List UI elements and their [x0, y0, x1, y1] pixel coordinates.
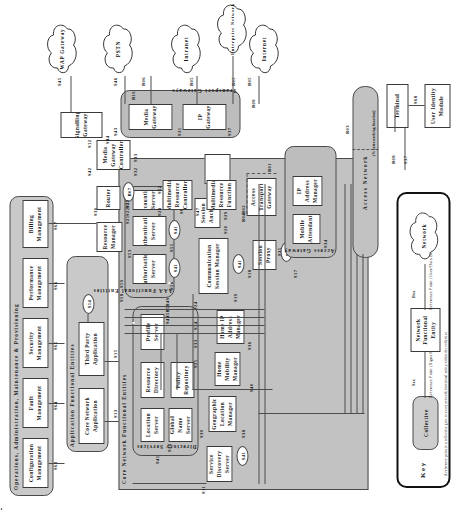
ref-s53: S53 [126, 249, 131, 258]
link-s14-a [87, 314, 88, 322]
key-bearer-ref: Bxx [410, 290, 416, 298]
ref-s26: S26 [166, 443, 171, 452]
collective-transport-gateways-label: Transport Gateways [171, 88, 236, 94]
cloud-enterprise-network: Enterprise Network [214, 0, 248, 58]
ref-s64: S64 [52, 401, 57, 410]
node-ip-gateway: IP Gateway [182, 104, 226, 130]
ref-s36: S36 [246, 341, 251, 350]
ref-s44: S44 [104, 135, 109, 144]
ref-s28: S28 [156, 207, 161, 216]
link-b08 [394, 106, 395, 132]
collective-access-gateway-label: Access Gateway [283, 248, 334, 254]
dashed-access-iwf [352, 149, 378, 150]
ref-s41-dir: S41 [154, 455, 159, 464]
ref-b06: B06 [140, 77, 145, 86]
ref-s34b: S34 [322, 239, 327, 248]
ref-bubble-s41-csm: S41 [232, 254, 244, 274]
ref-b05-3: B05 [246, 77, 251, 86]
cloud-wap-gateway: WAP Gateway [44, 20, 78, 78]
cloud-internet: Internet [246, 20, 280, 78]
ref-s30: S30 [92, 207, 97, 216]
link-b05-1 [196, 76, 197, 104]
node-service-discovery-server: Service Discovery Server [206, 446, 232, 482]
ref-s63: S63 [52, 461, 57, 470]
bus-riser-3 [124, 333, 264, 334]
ref-s31: S31 [176, 127, 181, 136]
link-s37b [404, 128, 405, 170]
link-b05-2 [232, 56, 233, 104]
bus-riser-1 [258, 413, 364, 414]
node-performance-management: Performance Management [22, 258, 48, 308]
figure-page: Operations, Administration, Maintenance … [0, 0, 459, 510]
node-third-party-application: Third Party Application [78, 322, 104, 376]
key-title: Key [418, 461, 426, 478]
ref-s66: S66 [52, 281, 57, 290]
node-security-management: Security Management [22, 318, 48, 368]
collective-application-entities-label: Application Functional Entities [68, 343, 74, 447]
ref-s52: S52 [156, 185, 161, 194]
ref-s55: S55 [168, 243, 173, 252]
node-router: Router [96, 186, 120, 210]
bus-line-4 [350, 184, 351, 414]
node-resource-manager: Resource Manager [96, 222, 122, 252]
node-fault-management: Fault Management [22, 378, 48, 428]
collective-access-network-label: Access Network [361, 155, 367, 210]
key-footnote: A reference point to a collective goes t… [443, 332, 447, 476]
ref-s13: S13 [112, 409, 117, 418]
ref-s11: S11 [200, 486, 205, 494]
key-network-cloud: Network [406, 208, 440, 264]
key-legend: Key Collective Sxx Reference Point (Sign… [396, 192, 450, 488]
ref-s22: S22 [124, 207, 129, 216]
node-multimedia-resource-function: Multimedia Resource Function [206, 180, 236, 210]
ref-b03: B03 [344, 125, 349, 134]
ref-s12: S12 [86, 139, 91, 148]
key-signal-ref: Sxx [410, 379, 416, 386]
ref-s40: S40 [248, 383, 253, 392]
ref-b10: B10 [130, 91, 135, 100]
link-b05-3 [258, 76, 259, 104]
ref-s42: S42 [86, 167, 91, 176]
node-multimedia-resource-controller: Multimedia Resource Controller [162, 180, 192, 210]
link-s45 [70, 76, 71, 112]
ref-s38: S38 [240, 429, 245, 438]
node-signalling-gateway: Signalling Gateway [60, 112, 102, 138]
ref-b04: B04 [240, 213, 245, 222]
ref-s15: S15 [112, 349, 117, 358]
bus-line-2 [264, 184, 265, 484]
ref-s67: S67 [52, 221, 57, 230]
link-b06 [150, 76, 151, 104]
node-billing-management: Billing Management [22, 200, 48, 248]
ref-s17: S17 [292, 269, 297, 278]
node-location-server: Location Server [140, 408, 164, 442]
dashed-b02-v [246, 173, 276, 174]
collective-core-network-entities-label: Core Network Functional Entities [120, 374, 126, 484]
ref-s65: S65 [52, 341, 57, 350]
link-s46 [124, 76, 125, 104]
key-signal-line [424, 352, 425, 398]
node-mobile-attendant: Mobile Attendant [292, 214, 320, 244]
bus-line-9 [160, 334, 161, 390]
ref-bubble-s41-authz: S41 [168, 258, 180, 278]
node-communication-session-manager: Communication Session Manager [198, 238, 228, 294]
bus-riser-4 [124, 325, 264, 326]
link-s11 [132, 483, 206, 484]
key-entity-swatch: Network Functional Entity [410, 308, 440, 352]
node-home-ip-address-manager: Home IP Address Manager [216, 310, 244, 344]
bus-line-7 [192, 294, 193, 390]
node-geographic-location-manager: Geographic Location Manager [208, 396, 236, 432]
bus-line-5 [356, 254, 357, 414]
bus-riser-6 [124, 309, 264, 310]
ref-s35: S35 [276, 247, 281, 256]
spacer-3 [132, 322, 134, 324]
ref-s20: S20 [222, 225, 227, 234]
ref-s19: S19 [232, 293, 237, 302]
node-policy-repository: Policy Repository [170, 362, 194, 398]
link-s68 [408, 105, 424, 106]
ref-s23: S23 [124, 199, 129, 208]
node-media-gateway-controller: Media Gateway Controller [96, 140, 130, 170]
ref-s58: S58 [118, 293, 123, 302]
node-media-gateway: Media Gateway [128, 104, 172, 130]
diagram-canvas: Operations, Administration, Maintenance … [0, 0, 459, 510]
ref-bubble-s41-authn: S41 [168, 220, 180, 240]
key-collective-swatch: Collective [412, 396, 438, 450]
